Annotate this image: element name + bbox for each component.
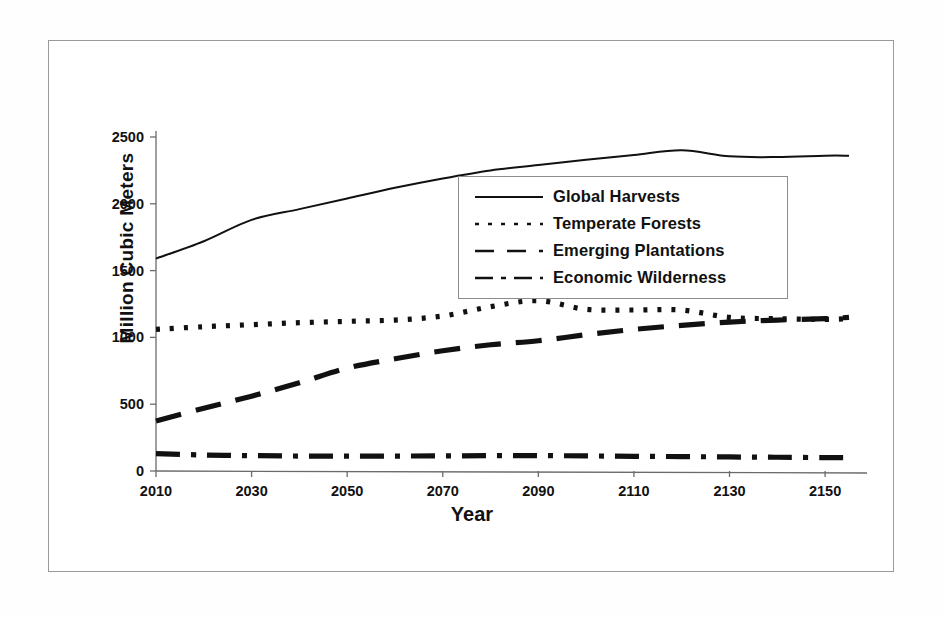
legend-item-label: Emerging Plantations: [553, 241, 725, 260]
legend-item[interactable]: Economic Wilderness: [459, 264, 787, 291]
legend-item[interactable]: Temperate Forests: [459, 210, 787, 237]
y-tick-label: 2000: [112, 196, 144, 212]
x-tick-label: 2090: [522, 483, 554, 499]
legend-item[interactable]: Global Harvests: [459, 183, 787, 210]
y-tick-label: 2500: [112, 129, 144, 145]
y-tick-label: 500: [120, 396, 144, 412]
legend-item-label: Temperate Forests: [553, 214, 701, 233]
chart-legend: Global Harvests Temperate Forests Emergi…: [458, 176, 788, 299]
legend-item-label: Economic Wilderness: [553, 268, 726, 287]
series-line: [156, 454, 849, 458]
y-tick-label: 1500: [112, 263, 144, 279]
dashed-line-icon: [473, 244, 545, 258]
y-tick-label: 1000: [112, 329, 144, 345]
series-line: [156, 317, 849, 421]
dashdot-line-icon: [473, 271, 545, 285]
y-tick-label: 0: [136, 463, 144, 479]
x-tick-label: 2110: [618, 483, 649, 499]
legend-item-label: Global Harvests: [553, 187, 680, 206]
legend-item[interactable]: Emerging Plantations: [459, 237, 787, 264]
dotted-line-icon: [473, 217, 545, 231]
x-tick-label: 2150: [809, 483, 841, 499]
series-line: [156, 301, 849, 330]
line-chart-plot: 0500100015002000250020102030205020702090…: [49, 41, 895, 573]
x-tick-label: 2030: [235, 483, 267, 499]
x-tick-label: 2010: [140, 483, 172, 499]
figure-frame: Million Cubic Meters Year 05001000150020…: [48, 40, 894, 572]
x-tick-label: 2050: [331, 483, 363, 499]
solid-line-icon: [473, 190, 545, 204]
x-tick-label: 2070: [427, 483, 459, 499]
x-tick-label: 2130: [713, 483, 745, 499]
page-canvas: Million Cubic Meters Year 05001000150020…: [0, 0, 943, 617]
